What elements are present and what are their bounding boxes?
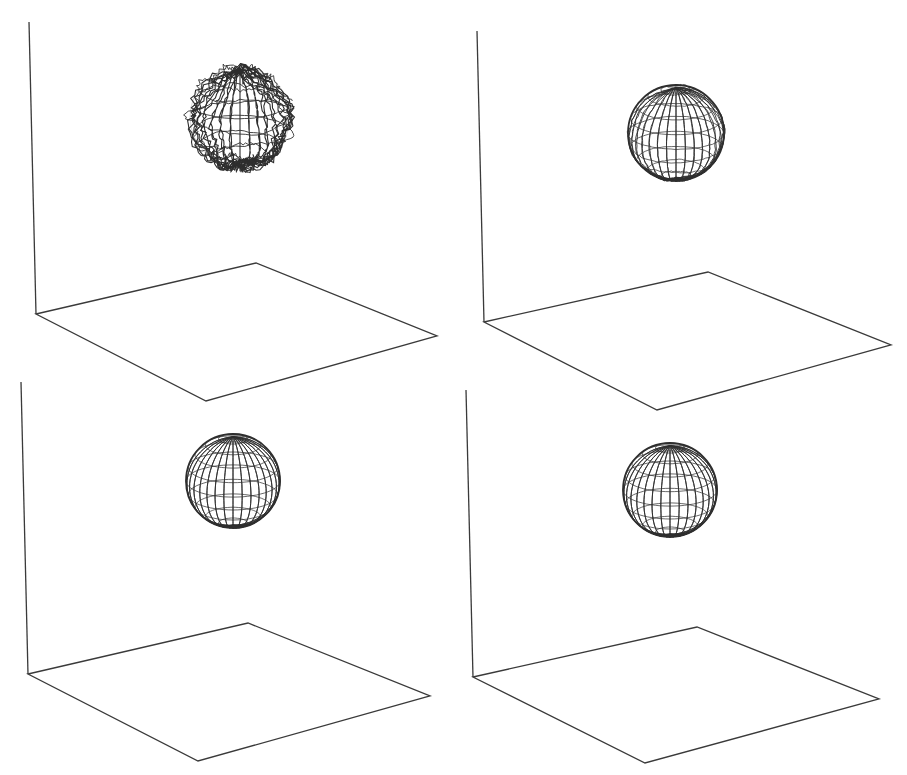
floor-plane (484, 272, 891, 410)
wireframe-sphere (184, 64, 295, 173)
vertical-axis (477, 31, 484, 322)
wireframe-sphere (623, 443, 717, 537)
panel-bottom-left (21, 382, 430, 761)
panel-top-left (29, 22, 437, 401)
figure-canvas (0, 0, 907, 775)
vertical-axis (21, 382, 28, 674)
floor-plane (473, 627, 879, 763)
wireframe-sphere (627, 85, 725, 182)
panel-top-right (477, 31, 891, 410)
floor-plane (28, 623, 430, 761)
vertical-axis (466, 390, 473, 677)
panel-bottom-right (466, 390, 879, 763)
floor-plane (36, 263, 437, 401)
vertical-axis (29, 22, 36, 314)
wireframe-sphere (186, 434, 280, 528)
